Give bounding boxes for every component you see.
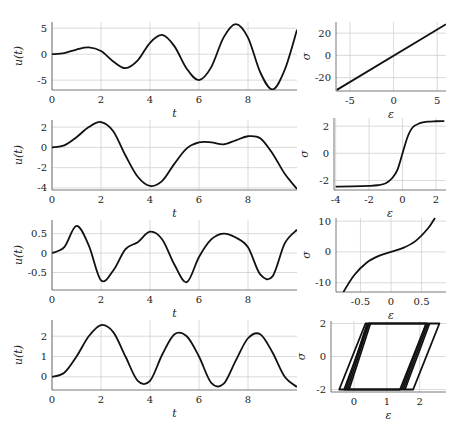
- x-tick-label: 0: [49, 94, 55, 105]
- x-tick-label: -2: [364, 194, 374, 205]
- plot-row2-right: -4-202-202εσ: [298, 118, 446, 220]
- y-tick-label: -2: [316, 384, 326, 395]
- y-tick-label: 5: [41, 23, 47, 34]
- y-tick-label: -2: [37, 162, 47, 173]
- y-tick-label: 2: [41, 122, 47, 133]
- y-axis-label: σ: [300, 251, 313, 259]
- x-axis-label: ε: [387, 207, 393, 220]
- y-tick-label: -20: [315, 72, 331, 83]
- y-tick-label: -2: [319, 175, 329, 186]
- x-axis-label: ε: [386, 409, 392, 422]
- y-tick-label: 0: [323, 148, 329, 159]
- y-tick-label: 2: [41, 331, 47, 342]
- y-tick-label: 0: [41, 49, 47, 60]
- plot-row4-right: 012-202εσ: [295, 318, 446, 422]
- y-axis-label: u(t): [12, 345, 25, 365]
- x-tick-label: 0: [49, 194, 55, 205]
- y-tick-label: -10: [315, 277, 331, 288]
- x-tick-label: 0: [49, 294, 55, 305]
- y-tick-label: 1: [41, 351, 47, 362]
- x-axis-label: ε: [388, 309, 394, 322]
- x-tick-label: 8: [245, 294, 251, 305]
- x-tick-label: 4: [147, 394, 153, 405]
- x-tick-label: 8: [245, 94, 251, 105]
- y-tick-label: 2: [320, 318, 326, 329]
- x-tick-label: 2: [98, 194, 104, 205]
- x-tick-label: 0: [399, 194, 405, 205]
- x-tick-label: 2: [98, 394, 104, 405]
- x-axis-label: ε: [388, 108, 394, 121]
- x-tick-label: 4: [147, 94, 153, 105]
- y-tick-label: 10: [318, 216, 331, 227]
- data-curve: [52, 325, 297, 387]
- x-tick-label: 2: [98, 94, 104, 105]
- x-tick-label: 0: [49, 394, 55, 405]
- x-tick-label: 2: [98, 294, 104, 305]
- x-tick-label: 1: [384, 396, 390, 407]
- data-curve: [52, 226, 297, 282]
- x-tick-label: -0.5: [351, 296, 370, 307]
- x-tick-label: 6: [196, 294, 202, 305]
- x-axis-label: t: [172, 307, 177, 320]
- y-axis-label: u(t): [12, 245, 25, 265]
- y-tick-label: -0.5: [28, 267, 47, 278]
- plot-row4-left: 02468012tu(t): [12, 320, 297, 420]
- x-tick-label: 0: [388, 296, 394, 307]
- y-tick-label: 0: [41, 371, 47, 382]
- plot-row1-right: -505-20020εσ: [300, 22, 446, 121]
- data-curve: [52, 122, 297, 189]
- y-tick-label: 20: [318, 28, 331, 39]
- data-curve: [336, 121, 445, 186]
- plot-row2-left: 02468-4-202tu(t): [12, 120, 297, 220]
- y-tick-label: 0: [41, 142, 47, 153]
- x-tick-label: 8: [245, 194, 251, 205]
- x-tick-label: 0.5: [414, 296, 430, 307]
- data-curve: [52, 24, 297, 89]
- y-axis-label: u(t): [12, 46, 25, 66]
- x-tick-label: 6: [196, 394, 202, 405]
- x-tick-label: 5: [434, 95, 440, 106]
- y-tick-label: 0: [325, 246, 331, 257]
- x-tick-label: 0: [351, 396, 357, 407]
- y-tick-label: 0: [320, 351, 326, 362]
- y-tick-label: 0.5: [31, 228, 47, 239]
- x-tick-label: 6: [196, 94, 202, 105]
- x-axis-label: t: [172, 107, 177, 120]
- x-tick-label: 2: [417, 396, 423, 407]
- y-tick-label: 0: [41, 248, 47, 259]
- y-tick-label: -5: [37, 75, 47, 86]
- figure: 02468-505tu(t)-505-20020εσ02468-4-202tu(…: [0, 0, 465, 429]
- y-axis-label: σ: [295, 352, 308, 360]
- x-tick-label: 2: [433, 194, 439, 205]
- plot-row3-left: 02468-0.500.5tu(t): [12, 220, 297, 320]
- x-axis-label: t: [172, 407, 177, 420]
- y-axis-label: u(t): [12, 145, 25, 165]
- x-tick-label: 0: [390, 95, 396, 106]
- y-axis-label: σ: [298, 150, 311, 158]
- y-tick-label: 0: [325, 50, 331, 61]
- y-axis-label: σ: [300, 52, 313, 60]
- x-tick-label: 6: [196, 194, 202, 205]
- x-tick-label: 4: [147, 194, 153, 205]
- y-tick-label: 2: [323, 121, 329, 132]
- x-tick-label: -4: [331, 194, 341, 205]
- y-tick-label: -4: [37, 182, 47, 193]
- data-curve: [337, 24, 446, 90]
- plot-row3-right: -0.500.5-10010εσ: [300, 216, 446, 322]
- x-tick-label: -5: [345, 95, 355, 106]
- x-tick-label: 4: [147, 294, 153, 305]
- x-axis-label: t: [172, 207, 177, 220]
- plot-row1-left: 02468-505tu(t): [12, 22, 297, 120]
- x-tick-label: 8: [245, 394, 251, 405]
